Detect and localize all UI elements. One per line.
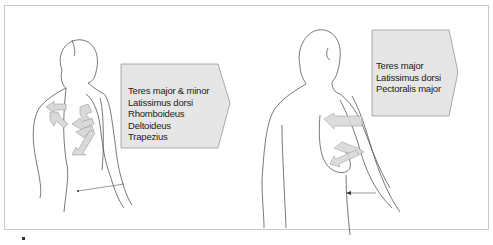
anatomy-illustration [0,0,493,245]
left-muscle-list: Teres major & minor Latissimus dorsi Rho… [128,85,209,143]
left-muscle-arrows [46,101,95,155]
muscle-label: Latissimus dorsi [376,72,441,84]
muscle-label: Teres major & minor [128,85,209,97]
muscle-label: Trapezius [128,131,209,143]
muscle-label: Rhomboideus [128,108,209,120]
right-muscle-arrows [324,113,364,167]
left-pointer-line [78,184,124,191]
right-muscle-list: Teres major Latissimus dorsi Pectoralis … [376,60,441,95]
muscle-label: Latissimus dorsi [128,97,209,109]
footer-mark [22,237,25,240]
left-pointer-dot [77,190,79,192]
muscle-label: Teres major [376,60,441,72]
muscle-label: Pectoralis major [376,83,441,95]
muscle-label: Deltoideus [128,120,209,132]
